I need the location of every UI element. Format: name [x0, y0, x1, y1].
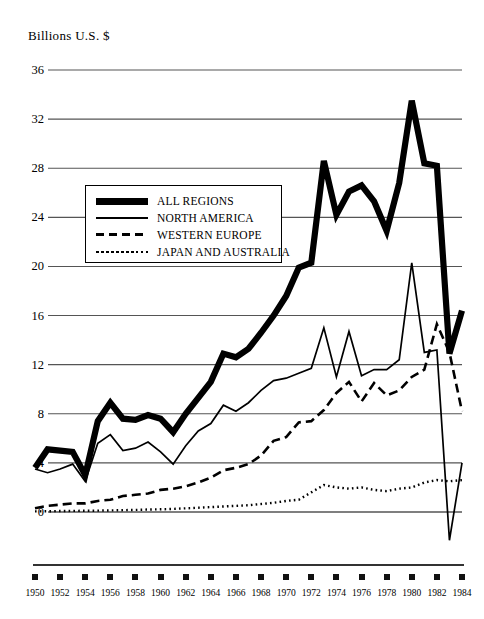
x-axis-marker-square-icon [233, 574, 239, 580]
x-axis-marker-square-icon [283, 574, 289, 580]
legend-label-western-europe: WESTERN EUROPE [157, 229, 262, 241]
y-axis-tick-label: 16 [18, 308, 44, 323]
y-axis-tick-label: 28 [18, 161, 44, 176]
legend-item-north-america: NORTH AMERICA [94, 209, 281, 226]
x-axis-marker-square-icon [434, 574, 440, 580]
y-axis-tick-label: 32 [18, 112, 44, 127]
y-axis-tick-label: 24 [18, 210, 44, 225]
x-axis-marker-square-icon [82, 574, 88, 580]
x-axis-tick-label: 1984 [442, 588, 482, 598]
x-axis-marker-square-icon [57, 574, 63, 580]
y-axis-tick-label: 12 [18, 357, 44, 372]
x-axis-marker-square-icon [409, 574, 415, 580]
y-axis-tick-label: 4 [18, 455, 44, 470]
chart-series-line [35, 263, 462, 540]
legend-item-japan-and-australia: JAPAN AND AUSTRALIA [94, 243, 281, 260]
legend-item-western-europe: WESTERN EUROPE [94, 226, 281, 243]
x-axis-marker-square-icon [183, 574, 189, 580]
x-axis-marker-square-icon [107, 574, 113, 580]
legend-item-all-regions: ALL REGIONS [94, 192, 281, 209]
y-axis-tick-label: 0 [18, 505, 44, 520]
legend-swatch-japan-and-australia-icon [94, 246, 150, 258]
x-axis-marker-square-icon [459, 574, 465, 580]
x-axis-marker-square-icon [384, 574, 390, 580]
chart-series-line [35, 101, 462, 475]
legend-label-north-america: NORTH AMERICA [157, 212, 254, 224]
y-axis-tick-label: 36 [18, 63, 44, 78]
x-axis-marker-square-icon [158, 574, 164, 580]
x-axis-marker-square-icon [208, 574, 214, 580]
legend-swatch-western-europe-icon [94, 229, 150, 241]
x-axis-marker-square-icon [32, 574, 38, 580]
chart-legend: ALL REGIONS NORTH AMERICA WESTERN EUROPE… [85, 185, 282, 263]
legend-swatch-north-america-icon [94, 212, 150, 224]
x-axis-marker-square-icon [308, 574, 314, 580]
chart-plot-area [0, 0, 484, 619]
legend-swatch-all-regions-icon [94, 195, 150, 207]
y-axis-tick-label: 20 [18, 259, 44, 274]
x-axis-marker-square-icon [258, 574, 264, 580]
chart-series-line [35, 480, 462, 511]
x-axis-marker-square-icon [359, 574, 365, 580]
legend-label-japan-and-australia: JAPAN AND AUSTRALIA [157, 246, 290, 258]
legend-label-all-regions: ALL REGIONS [157, 195, 234, 207]
x-axis-marker-square-icon [333, 574, 339, 580]
chart-container: Billions U.S. $ 36322824201612840 195019… [0, 0, 484, 619]
x-axis-marker-square-icon [132, 574, 138, 580]
y-axis-tick-label: 8 [18, 406, 44, 421]
